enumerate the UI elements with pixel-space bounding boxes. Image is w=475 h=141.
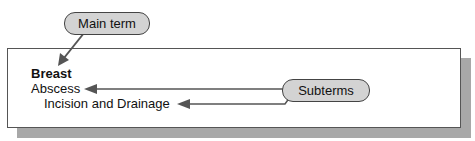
main-term-callout: Main term xyxy=(64,12,150,35)
subterms-callout: Subterms xyxy=(282,79,370,102)
